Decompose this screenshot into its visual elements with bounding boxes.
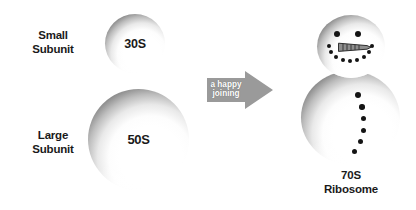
small-subunit-label: Small Subunit xyxy=(14,28,92,56)
ribosome-body-highlight xyxy=(301,71,400,164)
body-button xyxy=(359,104,365,110)
large-subunit-value: 50S xyxy=(88,89,189,190)
large-subunit-sphere: 50S xyxy=(88,89,189,190)
small-subunit-value: 30S xyxy=(105,14,165,73)
joining-arrow-label: a happy joining xyxy=(207,80,245,98)
ribosome-result-label: 70S Ribosome xyxy=(311,168,391,196)
ribosome-assembly-diagram: Small Subunit 30S Large Subunit 50S a ha… xyxy=(0,0,416,210)
joining-arrow: a happy joining xyxy=(207,71,273,109)
ribosome-body-sphere xyxy=(301,71,400,164)
eye-right-icon xyxy=(355,31,361,37)
body-button xyxy=(355,92,361,98)
carrot-nose-icon xyxy=(337,39,371,50)
eye-left-icon xyxy=(334,31,340,37)
large-subunit-label: Large Subunit xyxy=(14,128,92,156)
small-subunit-sphere: 30S xyxy=(105,14,165,73)
